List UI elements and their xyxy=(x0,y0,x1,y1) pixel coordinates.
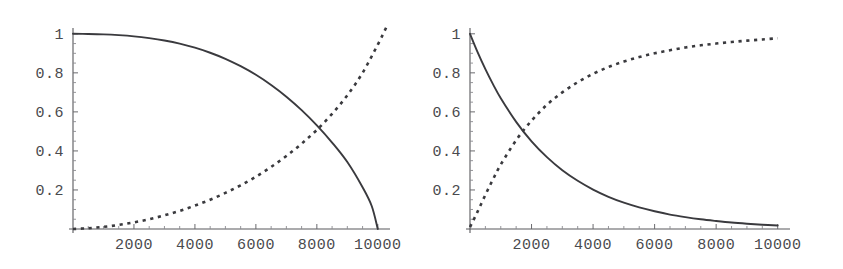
y-tick-label: 0.2 xyxy=(432,183,461,200)
x-tick-label: 6000 xyxy=(636,237,674,254)
curve-solid-decreasing xyxy=(73,34,378,229)
x-tick-label: 6000 xyxy=(237,237,275,254)
chart-panel-left: 2000400060008000100000.20.40.60.81 xyxy=(0,0,421,269)
figure-container: 2000400060008000100000.20.40.60.81 20004… xyxy=(0,0,843,269)
x-tick-label: 2000 xyxy=(115,237,153,254)
y-tick-label: 1 xyxy=(451,27,461,44)
x-tick-label: 4000 xyxy=(574,237,612,254)
x-tick-label: 4000 xyxy=(176,237,214,254)
y-tick-label: 0.6 xyxy=(432,105,461,122)
chart-left-plot: 2000400060008000100000.20.40.60.81 xyxy=(35,26,401,254)
y-tick-label: 0.4 xyxy=(432,144,461,161)
chart-right-svg: 2000400060008000100000.20.40.60.81 xyxy=(421,0,843,269)
y-tick-label: 1 xyxy=(54,27,64,44)
x-tick-label: 2000 xyxy=(513,237,551,254)
curve-dashed-increasing xyxy=(470,38,778,227)
chart-right-plot: 2000400060008000100000.20.40.60.81 xyxy=(432,27,801,254)
y-tick-label: 0.2 xyxy=(35,183,64,200)
y-tick-label: 0.8 xyxy=(35,66,64,83)
x-tick-label: 8000 xyxy=(697,237,735,254)
x-tick-label: 8000 xyxy=(298,237,336,254)
x-tick-label: 10000 xyxy=(354,237,402,254)
y-tick-label: 0.4 xyxy=(35,144,64,161)
chart-left-svg: 2000400060008000100000.20.40.60.81 xyxy=(0,0,421,269)
chart-panel-right: 2000400060008000100000.20.40.60.81 xyxy=(421,0,843,269)
y-tick-label: 0.6 xyxy=(35,105,64,122)
y-tick-label: 0.8 xyxy=(432,66,461,83)
curve-dashed-increasing xyxy=(73,26,387,229)
x-tick-label: 10000 xyxy=(754,237,802,254)
